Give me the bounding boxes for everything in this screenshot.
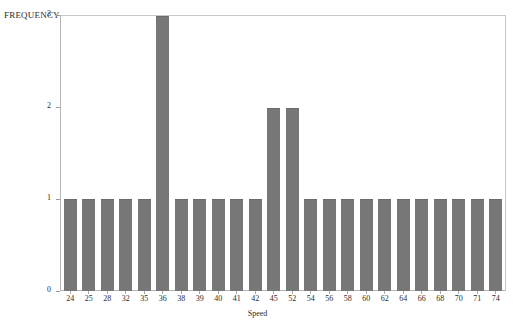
bar-slot xyxy=(209,16,228,291)
x-axis-tick-labels: 2425283235363839404142455254565860626466… xyxy=(61,293,505,307)
x-tick-label: 64 xyxy=(394,293,413,307)
x-tick-label: 41 xyxy=(228,293,247,307)
x-tick-label: 52 xyxy=(283,293,302,307)
bar-slot xyxy=(302,16,321,291)
bar xyxy=(267,108,280,291)
x-axis-title: Speed xyxy=(0,309,515,318)
bar-slot xyxy=(468,16,487,291)
bar xyxy=(378,199,391,291)
bar xyxy=(286,108,299,291)
bars-container xyxy=(61,16,505,291)
y-tick-mark xyxy=(56,15,60,16)
bar xyxy=(230,199,243,291)
y-tick-label: 2 xyxy=(47,101,51,111)
x-tick-label: 71 xyxy=(468,293,487,307)
y-tick-mark xyxy=(56,291,60,292)
bar xyxy=(489,199,502,291)
x-tick-label: 68 xyxy=(431,293,450,307)
x-tick-label: 24 xyxy=(61,293,80,307)
x-tick-label: 38 xyxy=(172,293,191,307)
x-tick-label: 45 xyxy=(265,293,284,307)
bar xyxy=(341,199,354,291)
bar xyxy=(434,199,447,291)
bar xyxy=(138,199,151,291)
x-tick-label: 60 xyxy=(357,293,376,307)
x-tick-label: 25 xyxy=(80,293,99,307)
bar-slot xyxy=(339,16,358,291)
bar-slot xyxy=(320,16,339,291)
bar-slot xyxy=(154,16,173,291)
bar xyxy=(471,199,484,291)
bar-slot xyxy=(376,16,395,291)
bar-slot xyxy=(246,16,265,291)
bar-slot xyxy=(80,16,99,291)
x-tick-label: 66 xyxy=(413,293,432,307)
bar-slot xyxy=(135,16,154,291)
bar-slot xyxy=(487,16,506,291)
x-tick-label: 74 xyxy=(487,293,506,307)
y-tick-label: 3 xyxy=(47,9,51,19)
bar xyxy=(82,199,95,291)
bar xyxy=(64,199,77,291)
bar xyxy=(360,199,373,291)
x-tick-label: 42 xyxy=(246,293,265,307)
x-tick-label: 32 xyxy=(117,293,136,307)
x-tick-label: 56 xyxy=(320,293,339,307)
bar-slot xyxy=(265,16,284,291)
bar-slot xyxy=(228,16,247,291)
bar xyxy=(156,16,169,291)
bar xyxy=(212,199,225,291)
x-tick-label: 54 xyxy=(302,293,321,307)
bar-slot xyxy=(413,16,432,291)
bar xyxy=(397,199,410,291)
bar-slot xyxy=(61,16,80,291)
bar xyxy=(323,199,336,291)
bar xyxy=(175,199,188,291)
bar xyxy=(101,199,114,291)
bar-slot xyxy=(357,16,376,291)
bar xyxy=(415,199,428,291)
bar-slot xyxy=(283,16,302,291)
x-tick-label: 40 xyxy=(209,293,228,307)
y-axis-title: FREQUENCY xyxy=(4,10,60,20)
bar xyxy=(304,199,317,291)
bar xyxy=(452,199,465,291)
y-tick-mark xyxy=(56,199,60,200)
x-tick-label: 36 xyxy=(154,293,173,307)
bar-slot xyxy=(431,16,450,291)
bar xyxy=(119,199,132,291)
y-tick-label: 1 xyxy=(47,193,51,203)
x-tick-label: 62 xyxy=(376,293,395,307)
bar-slot xyxy=(394,16,413,291)
bar xyxy=(193,199,206,291)
x-tick-label: 35 xyxy=(135,293,154,307)
frequency-bar-chart: FREQUENCY 0123 2425283235363839404142455… xyxy=(0,0,515,326)
x-tick-label: 58 xyxy=(339,293,358,307)
bar-slot xyxy=(191,16,210,291)
bar xyxy=(249,199,262,291)
bar-slot xyxy=(98,16,117,291)
x-tick-label: 39 xyxy=(191,293,210,307)
y-tick-label: 0 xyxy=(47,285,51,295)
x-tick-label: 28 xyxy=(98,293,117,307)
bar-slot xyxy=(117,16,136,291)
y-tick-mark xyxy=(56,107,60,108)
x-tick-label: 70 xyxy=(450,293,469,307)
bar-slot xyxy=(450,16,469,291)
bar-slot xyxy=(172,16,191,291)
